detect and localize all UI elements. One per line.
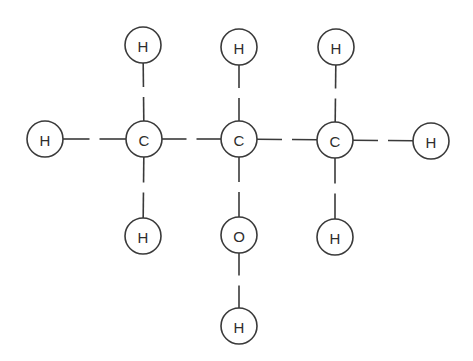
- atom-label: C: [139, 132, 150, 149]
- atom-h1: H: [27, 121, 63, 157]
- atom-h7: H: [317, 219, 353, 255]
- atom-label: C: [234, 132, 245, 149]
- atom-label: C: [330, 133, 341, 150]
- atom-label: H: [330, 230, 341, 247]
- atom-h5: H: [318, 29, 354, 65]
- atom-label: H: [40, 132, 51, 149]
- atom-o1: O: [221, 217, 257, 253]
- atom-label: H: [234, 40, 245, 57]
- atom-c3: C: [317, 122, 353, 158]
- atom-h4: H: [221, 29, 257, 65]
- atom-c1: C: [126, 121, 162, 157]
- atom-label: H: [426, 134, 437, 151]
- atom-label: H: [138, 38, 149, 55]
- molecule-diagram: CCCOHHHHHHHH: [0, 0, 473, 361]
- atom-label: O: [233, 228, 245, 245]
- atom-h2: H: [125, 27, 161, 63]
- atom-label: H: [331, 40, 342, 57]
- atom-h8: H: [221, 308, 257, 344]
- atom-h6: H: [413, 123, 449, 159]
- atom-label: H: [234, 319, 245, 336]
- atom-c2: C: [221, 121, 257, 157]
- atom-h3: H: [125, 218, 161, 254]
- atom-label: H: [138, 229, 149, 246]
